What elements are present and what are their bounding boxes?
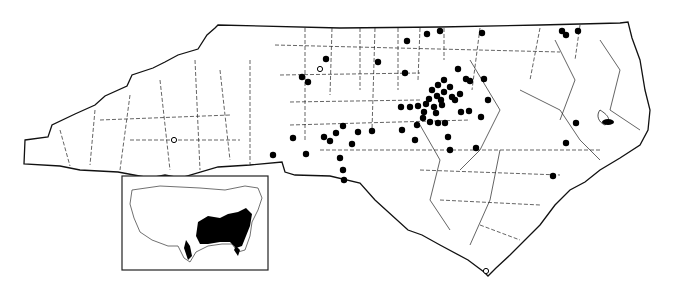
filled-dot-marker [439,102,445,108]
filled-dot-marker [412,137,418,143]
filled-dot-marker [414,122,420,128]
filled-dot-marker [321,134,327,140]
filled-dot-marker [442,120,448,126]
filled-dot-marker [429,87,435,93]
filled-dot-marker [433,110,439,116]
filled-dot-marker [420,115,426,121]
filled-dot-marker [473,145,479,151]
us-inset-map [122,176,268,270]
filled-dot-marker [341,177,347,183]
filled-dot-marker [270,152,276,158]
open-dot-marker [483,268,488,273]
nc-county-map [0,0,681,289]
filled-dot-marker [481,76,487,82]
filled-dot-marker [424,31,430,37]
filled-dot-marker [447,84,453,90]
filled-dot-marker [457,91,463,97]
filled-dot-marker [355,129,361,135]
filled-dot-marker [407,104,413,110]
filled-dot-marker [467,78,473,84]
filled-dot-marker [421,109,427,115]
lake-icon [602,119,614,125]
open-dot-marker [317,66,322,71]
filled-dot-marker [323,56,329,62]
filled-dot-marker [340,123,346,129]
filled-dot-marker [445,134,451,140]
filled-dot-marker [299,74,305,80]
filled-dot-marker [441,89,447,95]
filled-dot-marker [333,130,339,136]
filled-dot-marker [375,59,381,65]
filled-dot-marker [327,138,333,144]
filled-dot-marker [404,38,410,44]
filled-dot-marker [550,173,556,179]
filled-dot-marker [563,140,569,146]
filled-dot-marker [455,66,461,72]
filled-dot-marker [423,101,429,107]
filled-dot-marker [575,28,581,34]
state-outline [24,22,650,276]
filled-dot-marker [349,141,355,147]
filled-dot-marker [435,120,441,126]
filled-dot-marker [479,30,485,36]
open-dot-marker [171,137,176,142]
filled-dot-marker [485,97,491,103]
filled-dot-marker [305,79,311,85]
filled-dot-marker [290,135,296,141]
filled-dot-marker [340,167,346,173]
filled-dot-marker [435,82,441,88]
filled-dot-marker [452,97,458,103]
filled-dot-marker [415,103,421,109]
filled-dot-marker [458,109,464,115]
filled-dot-marker [337,155,343,161]
filled-dot-marker [303,151,309,157]
filled-dot-marker [369,128,375,134]
filled-dot-marker [398,104,404,110]
filled-dot-marker [478,114,484,120]
filled-dot-marker [427,119,433,125]
filled-dot-marker [437,28,443,34]
filled-dot-marker [402,70,408,76]
filled-dot-marker [447,147,453,153]
filled-dot-marker [431,104,437,110]
filled-dot-marker [399,127,405,133]
filled-dot-marker [441,77,447,83]
filled-dot-marker [573,120,579,126]
filled-dot-marker [466,108,472,114]
filled-dot-marker [563,32,569,38]
